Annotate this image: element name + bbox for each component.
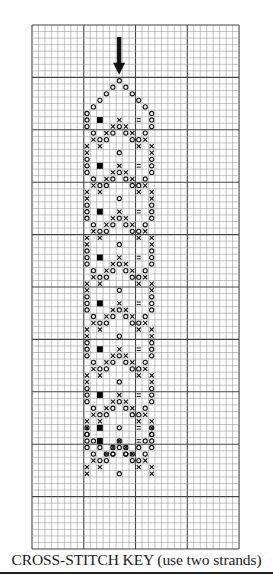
divider [0, 572, 273, 574]
cross-stitch-chart [0, 0, 273, 575]
chart-grid [32, 25, 239, 549]
cross-stitch-key-heading: CROSS-STITCH KEY (use two strands) [0, 551, 273, 569]
center-arrow-icon [113, 37, 125, 75]
stitch-symbols [85, 79, 154, 476]
